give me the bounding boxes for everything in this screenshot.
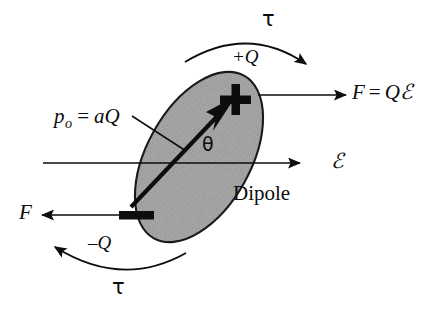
minus-charge-icon [119, 211, 154, 220]
body-label: Dipole [233, 183, 290, 204]
force-positive-label: F=Qℰ [352, 82, 413, 103]
charge-symbol-moment: Q [104, 104, 119, 128]
charge-negative-label: –Q [88, 233, 111, 252]
dipole-moment-symbol: p [54, 104, 65, 128]
dipole-figure: τ +Q F=Qℰ po=aQ θ ℰ Dipole F –Q τ [0, 0, 431, 313]
torque-label-bottom: τ [112, 277, 125, 298]
figure-canvas [0, 0, 431, 313]
charge-symbol: Q [385, 80, 400, 104]
separation-symbol: a [94, 104, 105, 128]
field-symbol-force: ℰ [400, 80, 413, 104]
torque-arc-bottom [55, 247, 186, 270]
torque-label-top: τ [262, 9, 275, 30]
equals-sign: = [365, 80, 385, 104]
angle-label: θ [202, 135, 214, 154]
force-symbol: F [352, 80, 365, 104]
charge-positive-label: +Q [232, 47, 259, 66]
field-label: ℰ [331, 151, 344, 172]
equals-sign-moment: = [72, 104, 94, 128]
dipole-moment-label: po=aQ [54, 106, 120, 130]
dipole-moment-subscript: o [65, 115, 73, 131]
dipole-ellipse [108, 50, 289, 263]
force-negative-label: F [19, 202, 32, 223]
